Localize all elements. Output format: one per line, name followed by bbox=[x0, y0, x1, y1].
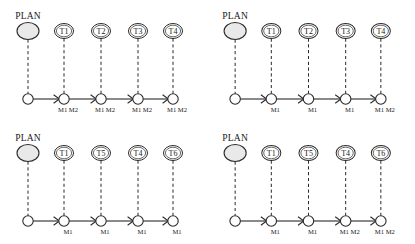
task-label-t3: T3 bbox=[341, 27, 350, 36]
operation-node-t2[interactable] bbox=[96, 94, 106, 104]
machine-label-t1: M1 bbox=[271, 228, 280, 235]
operation-node-t5[interactable] bbox=[303, 216, 313, 226]
operation-node-t1[interactable] bbox=[266, 94, 276, 104]
machine-label-t5: M1 bbox=[100, 228, 109, 235]
task-label-t5: T5 bbox=[97, 149, 106, 158]
task-label-t6: T6 bbox=[169, 149, 178, 158]
operation-node-t3[interactable] bbox=[133, 94, 143, 104]
start-operation-node[interactable] bbox=[230, 216, 240, 226]
machine-label-t6: M1 bbox=[172, 228, 181, 235]
start-operation-node[interactable] bbox=[230, 94, 240, 104]
task-label-t4: T4 bbox=[134, 149, 143, 158]
operation-node-t2[interactable] bbox=[303, 94, 313, 104]
panel-bottom-left-canvas: PLANT1M1T5M1T4M1T6M1 bbox=[0, 122, 207, 244]
panel-bottom-left: PLANT1M1T5M1T4M1T6M1 bbox=[0, 122, 207, 244]
start-operation-node[interactable] bbox=[23, 94, 33, 104]
task-label-t2: T2 bbox=[97, 27, 106, 36]
task-label-t1: T1 bbox=[267, 27, 276, 36]
plan-label: PLAN bbox=[15, 133, 41, 143]
task-label-t1: T1 bbox=[60, 149, 69, 158]
operation-node-t4[interactable] bbox=[168, 94, 178, 104]
task-label-t1: T1 bbox=[60, 27, 69, 36]
machine-label-t4: M1 M2 bbox=[375, 106, 395, 113]
panel-bottom-right: PLANT1M1T5M1T4M1 M2T6M1 M2 bbox=[207, 122, 415, 244]
panel-top-right-canvas: PLANT1M1T2M1T3M1T4M1 M2 bbox=[207, 0, 415, 122]
operation-node-t1[interactable] bbox=[266, 216, 276, 226]
diagram-grid: PLANT1M1 M2T2M1 M2T3M1 M2T4M1 M2PLANT1M1… bbox=[0, 0, 415, 244]
operation-node-t3[interactable] bbox=[340, 94, 350, 104]
operation-node-t1[interactable] bbox=[59, 216, 69, 226]
machine-label-t2: M1 M2 bbox=[95, 106, 115, 113]
machine-label-t4: M1 bbox=[137, 228, 146, 235]
machine-label-t4: M1 M2 bbox=[340, 228, 360, 235]
plan-node-ellipse[interactable] bbox=[17, 145, 39, 162]
machine-label-t2: M1 bbox=[308, 106, 317, 113]
task-label-t4: T4 bbox=[169, 27, 178, 36]
operation-node-t4[interactable] bbox=[376, 94, 386, 104]
task-label-t4: T4 bbox=[376, 27, 385, 36]
operation-node-t6[interactable] bbox=[168, 216, 178, 226]
machine-label-t1: M1 bbox=[63, 228, 72, 235]
start-operation-node[interactable] bbox=[23, 216, 33, 226]
plan-node-ellipse[interactable] bbox=[224, 23, 246, 40]
panel-bottom-right-canvas: PLANT1M1T5M1T4M1 M2T6M1 M2 bbox=[207, 122, 415, 244]
task-label-t1: T1 bbox=[267, 149, 276, 158]
task-label-t4: T4 bbox=[341, 149, 350, 158]
operation-node-t6[interactable] bbox=[376, 216, 386, 226]
operation-node-t5[interactable] bbox=[96, 216, 106, 226]
operation-node-t1[interactable] bbox=[59, 94, 69, 104]
panel-top-left-canvas: PLANT1M1 M2T2M1 M2T3M1 M2T4M1 M2 bbox=[0, 0, 207, 122]
operation-node-t4[interactable] bbox=[340, 216, 350, 226]
machine-label-t4: M1 M2 bbox=[167, 106, 187, 113]
panel-top-left: PLANT1M1 M2T2M1 M2T3M1 M2T4M1 M2 bbox=[0, 0, 207, 122]
task-label-t2: T2 bbox=[304, 27, 313, 36]
plan-node-ellipse[interactable] bbox=[224, 145, 246, 162]
plan-label: PLAN bbox=[222, 11, 248, 21]
machine-label-t3: M1 M2 bbox=[132, 106, 152, 113]
machine-label-t1: M1 bbox=[271, 106, 280, 113]
task-label-t5: T5 bbox=[304, 149, 313, 158]
machine-label-t1: M1 M2 bbox=[58, 106, 78, 113]
plan-label: PLAN bbox=[15, 11, 41, 21]
plan-label: PLAN bbox=[222, 133, 248, 143]
panel-top-right: PLANT1M1T2M1T3M1T4M1 M2 bbox=[207, 0, 415, 122]
task-label-t3: T3 bbox=[134, 27, 143, 36]
task-label-t6: T6 bbox=[376, 149, 385, 158]
operation-node-t4[interactable] bbox=[133, 216, 143, 226]
plan-node-ellipse[interactable] bbox=[17, 23, 39, 40]
machine-label-t6: M1 M2 bbox=[375, 228, 395, 235]
machine-label-t3: M1 bbox=[345, 106, 354, 113]
machine-label-t5: M1 bbox=[308, 228, 317, 235]
